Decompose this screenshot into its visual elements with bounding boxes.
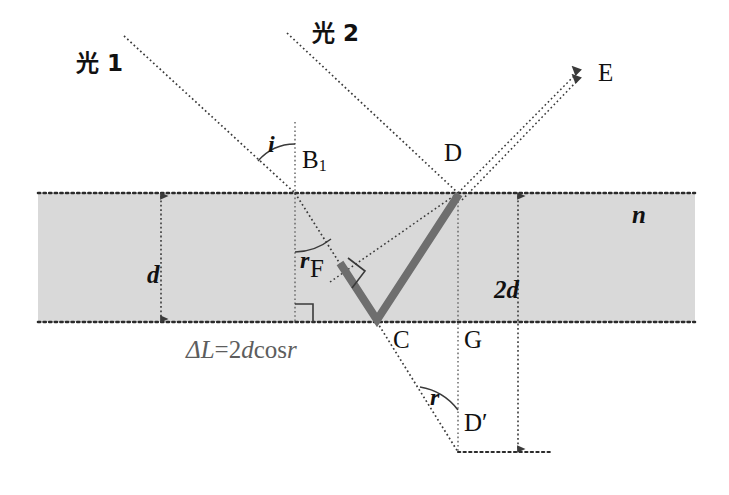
point-label-B1-subscript: 1 [319, 157, 327, 174]
formula-thickness: d [241, 336, 254, 363]
formula-lhs: ΔL [186, 336, 215, 363]
angle-label-r-upper: r [300, 248, 309, 272]
dimension-label-d: d [147, 262, 160, 287]
ray-label-1: 光 1 [76, 52, 123, 75]
path-difference-formula: ΔL=2dcosr [186, 337, 297, 362]
refractive-index-label: n [632, 202, 646, 227]
ray-label-2: 光 2 [312, 22, 359, 45]
angle-arc-i [258, 144, 295, 161]
point-label-F: F [310, 256, 324, 281]
point-label-G: G [464, 327, 482, 352]
point-label-Dprime: D′ [464, 410, 488, 435]
point-label-C: C [393, 327, 410, 352]
point-label-B1: B1 [302, 147, 327, 174]
angle-label-r-lower: r [430, 385, 439, 409]
formula-equals: = [215, 336, 229, 363]
formula-coefficient: 2 [229, 336, 242, 363]
dimension-label-2d: 2d [494, 277, 519, 302]
incident-ray-1 [124, 36, 295, 193]
point-label-E: E [598, 60, 613, 85]
point-label-D: D [444, 140, 462, 165]
formula-angle: r [287, 336, 297, 363]
point-label-B1-base: B [302, 146, 319, 173]
exit-ray-upper [458, 72, 578, 193]
extension-line-C-to-Dprime [377, 322, 458, 452]
physics-diagram: 光 1 光 2 i r r B1 D E F C G D′ d 2d n ΔL=… [0, 0, 729, 495]
angle-label-i: i [268, 132, 275, 156]
exit-ray-lower [462, 80, 578, 200]
formula-cos: cos [254, 336, 287, 363]
